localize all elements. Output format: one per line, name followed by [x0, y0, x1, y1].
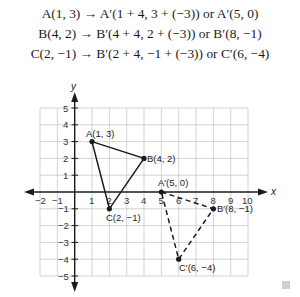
svg-text:5: 5 — [63, 103, 68, 114]
point-a-label: A(1, 3) — [86, 128, 115, 139]
point-b-prime — [211, 206, 216, 211]
x-axis-left-arrow-icon — [24, 189, 34, 196]
svg-text:4: 4 — [63, 119, 68, 130]
svg-text:−2: −2 — [35, 195, 46, 206]
coordinate-plane: x y −2 −1 1 2 3 4 5 6 7 8 9 10 5 4 3 2 1… — [0, 0, 300, 297]
svg-text:8: 8 — [211, 195, 216, 206]
point-b-prime-label: B′(8, −1) — [217, 203, 253, 214]
point-c-prime-label: C′(6, −4) — [179, 262, 215, 273]
point-a — [89, 139, 94, 144]
svg-text:−5: −5 — [58, 271, 69, 282]
point-a-prime-label: A′(5, 0) — [158, 177, 188, 188]
svg-text:3: 3 — [63, 136, 68, 147]
y-axis-down-arrow-icon — [71, 282, 78, 292]
x-axis-label: x — [270, 186, 277, 197]
svg-text:−4: −4 — [58, 254, 69, 265]
x-axis-right-arrow-icon — [258, 189, 268, 196]
y-axis-up-arrow-icon — [71, 92, 78, 102]
point-a-prime — [159, 189, 164, 194]
corner-marker — [282, 281, 290, 289]
y-axis-label: y — [70, 81, 77, 92]
point-b-label: B(4, 2) — [147, 153, 176, 164]
point-c-label: C(2, −1) — [106, 212, 141, 223]
svg-text:6: 6 — [176, 195, 181, 206]
svg-text:−1: −1 — [58, 203, 69, 214]
svg-text:4: 4 — [141, 195, 146, 206]
svg-text:−3: −3 — [58, 237, 69, 248]
point-c — [107, 206, 112, 211]
svg-text:3: 3 — [124, 195, 129, 206]
svg-text:−2: −2 — [58, 220, 69, 231]
svg-text:1: 1 — [63, 170, 68, 181]
svg-text:2: 2 — [63, 153, 68, 164]
svg-text:1: 1 — [89, 195, 94, 206]
point-b — [141, 156, 146, 161]
